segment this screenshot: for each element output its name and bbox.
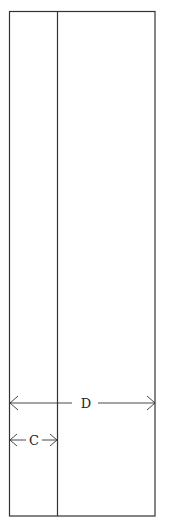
- dimension-c-label: C: [29, 433, 39, 448]
- dimension-d-label: D: [81, 396, 91, 411]
- dimension-d: D: [10, 396, 155, 411]
- diagram-canvas: D C: [0, 0, 169, 521]
- dimension-c: C: [10, 433, 57, 448]
